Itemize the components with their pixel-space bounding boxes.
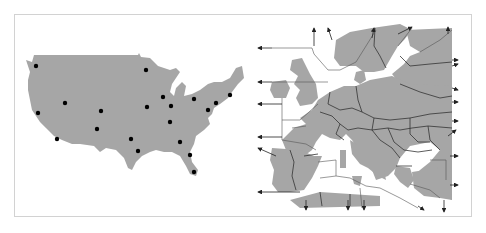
europe-map <box>258 24 458 212</box>
maps-figure <box>0 0 486 233</box>
usa-map <box>26 53 244 176</box>
europe-land <box>270 24 452 208</box>
usa-land <box>26 53 244 176</box>
